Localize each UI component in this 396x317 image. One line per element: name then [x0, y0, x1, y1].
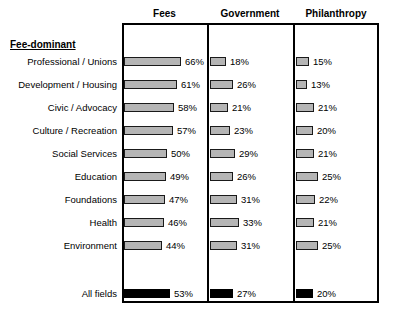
bar-value-government: 21% [232, 102, 251, 114]
bar-value-philanthropy: 20% [317, 125, 336, 137]
column-header-fees: Fees [122, 7, 207, 20]
bar-government [210, 80, 233, 89]
row-label: Professional / Unions [27, 56, 117, 68]
bar-philanthropy [296, 57, 309, 66]
row-label: Civic / Advocacy [48, 102, 117, 114]
bar-total-philanthropy [296, 289, 313, 298]
bar-fees [124, 195, 165, 204]
row-label: Environment [64, 240, 117, 252]
bar-value-philanthropy: 13% [311, 79, 330, 91]
bar-philanthropy [296, 103, 314, 112]
bar-government [210, 57, 226, 66]
bar-value-fees: 47% [169, 194, 188, 206]
bar-value-government: 23% [234, 125, 253, 137]
bar-government [210, 172, 233, 181]
row-label-all-fields: All fields [82, 288, 117, 300]
bar-value-government: 31% [241, 194, 260, 206]
bar-value-total-government: 27% [237, 288, 256, 300]
bar-value-fees: 44% [166, 240, 185, 252]
bar-philanthropy [296, 126, 313, 135]
bar-value-total-philanthropy: 20% [317, 288, 336, 300]
bar-government [210, 126, 230, 135]
bar-value-philanthropy: 21% [318, 102, 337, 114]
bar-value-total-fees: 53% [174, 288, 193, 300]
bar-total-fees [124, 289, 170, 298]
bar-value-government: 29% [239, 148, 258, 160]
bar-value-philanthropy: 15% [313, 56, 332, 68]
bar-fees [124, 172, 166, 181]
bar-philanthropy [296, 195, 315, 204]
bar-value-government: 26% [237, 171, 256, 183]
bar-value-fees: 58% [178, 102, 197, 114]
column-header-philanthropy: Philanthropy [293, 7, 379, 20]
row-label: Education [75, 171, 117, 183]
bar-government [210, 149, 235, 158]
bar-value-fees: 49% [170, 171, 189, 183]
bar-fees [124, 126, 173, 135]
bar-philanthropy [296, 172, 318, 181]
bar-fees [124, 103, 174, 112]
bar-total-government [210, 289, 233, 298]
bar-value-government: 31% [241, 240, 260, 252]
grouped-bar-chart: Fees Government Philanthropy Fee-dominan… [0, 0, 396, 317]
bar-government [210, 218, 239, 227]
bar-value-philanthropy: 25% [322, 171, 341, 183]
bar-value-government: 26% [237, 79, 256, 91]
bar-fees [124, 57, 181, 66]
bar-value-government: 33% [243, 217, 262, 229]
bar-value-fees: 57% [177, 125, 196, 137]
row-label: Foundations [65, 194, 117, 206]
bar-value-philanthropy: 21% [318, 217, 337, 229]
bar-philanthropy [296, 80, 307, 89]
column-divider-2 [293, 25, 295, 301]
row-label: Development / Housing [18, 79, 117, 91]
bar-philanthropy [296, 149, 314, 158]
bar-value-philanthropy: 25% [322, 240, 341, 252]
bar-government [210, 103, 228, 112]
bar-value-government: 18% [230, 56, 249, 68]
bar-fees [124, 80, 177, 89]
bar-value-philanthropy: 22% [319, 194, 338, 206]
column-divider-1 [207, 25, 209, 301]
row-label: Social Services [52, 148, 117, 160]
group-label-fee-dominant: Fee-dominant [10, 39, 76, 51]
row-label: Culture / Recreation [33, 125, 117, 137]
bar-philanthropy [296, 241, 318, 250]
row-label: Health [90, 217, 117, 229]
bar-philanthropy [296, 218, 314, 227]
column-header-government: Government [207, 7, 293, 20]
bar-government [210, 195, 237, 204]
bar-value-fees: 50% [171, 148, 190, 160]
bar-value-fees: 46% [168, 217, 187, 229]
bar-government [210, 241, 237, 250]
bar-fees [124, 241, 162, 250]
bar-value-fees: 61% [181, 79, 200, 91]
bar-value-philanthropy: 21% [318, 148, 337, 160]
bar-fees [124, 218, 164, 227]
bar-value-fees: 66% [185, 56, 204, 68]
bar-fees [124, 149, 167, 158]
